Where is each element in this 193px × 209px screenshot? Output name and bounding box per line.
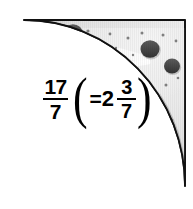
- pizza-quarter-illustration: [0, 0, 193, 209]
